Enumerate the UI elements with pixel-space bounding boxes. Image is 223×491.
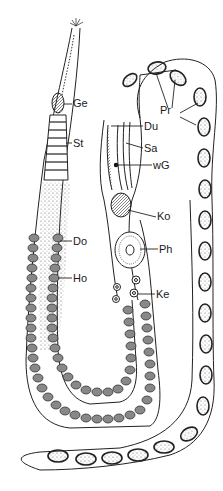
label-do: Do: [73, 236, 87, 247]
ph-organ: [115, 232, 145, 268]
label-ge: Ge: [73, 98, 88, 109]
diagram-drawing: [0, 0, 223, 491]
label-sa: Sa: [144, 143, 157, 154]
label-ke: Ke: [156, 289, 169, 300]
label-ko: Ko: [157, 211, 170, 222]
label-st: St: [73, 138, 83, 149]
label-wg: wG: [153, 160, 170, 171]
label-ph: Ph: [159, 244, 172, 255]
label-du: Du: [144, 121, 158, 132]
anatomical-diagram: Ge St Do Ho Pr Du Sa wG Ko Ph Ke: [0, 0, 223, 491]
head-bristles: [70, 18, 83, 26]
ke-rings: [113, 276, 141, 303]
middle-segment: [100, 118, 145, 303]
label-pr: Pr: [160, 105, 171, 116]
label-ho: Ho: [73, 273, 87, 284]
st-striated-region: [44, 115, 68, 180]
ko-organ: [111, 193, 131, 217]
ge-organ: [52, 93, 64, 113]
